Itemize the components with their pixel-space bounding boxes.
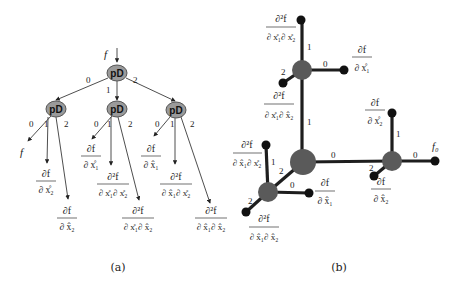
svg-text:∂ x̂₂: ∂ x̂₂ [373, 194, 388, 204]
edge-label-upper-top: 1 [307, 42, 312, 52]
svg-text:∂²f: ∂²f [273, 90, 285, 101]
leaf-dot-lower-top [262, 141, 271, 150]
svg-text:∂ x̂₁∂ x̂₂: ∂ x̂₁∂ x̂₂ [197, 222, 226, 232]
edge-label-c0-1: 1 [44, 119, 49, 129]
leaf-c0-2: ∂f ∂ x̂₂ [57, 205, 77, 232]
formula-right-right: f₀ [432, 141, 439, 152]
formula-lower-right: ∂f ∂ x̂₁ [315, 177, 335, 206]
svg-text:∂f: ∂f [377, 176, 386, 187]
pd-node-child1: pD [107, 101, 127, 117]
edge-label-c2-1: 1 [170, 119, 175, 129]
edge-root-0 [56, 78, 108, 100]
edge-label-c0-0: 0 [29, 119, 34, 129]
svg-text:∂ x̊₁: ∂ x̊₁ [83, 160, 98, 170]
svg-text:∂ x̂₁∂ x̊₂: ∂ x̂₁∂ x̊₂ [233, 158, 262, 168]
edge-label-upper-right: 0 [323, 59, 328, 69]
edge-label-c2-2: 2 [190, 119, 195, 129]
pd-node-child0: pD [46, 101, 66, 117]
leaf-dot-right-right [431, 157, 440, 166]
edge-label-c0-2: 2 [64, 119, 69, 129]
svg-text:∂ x̂₂: ∂ x̂₂ [59, 222, 74, 232]
caption-a: (a) [110, 261, 125, 274]
formula-lower-top: ∂²f ∂ x̂₁∂ x̊₂ [233, 139, 262, 168]
leaf-dot-right-top [388, 109, 397, 118]
svg-text:∂ x̂₁∂ x̂₂: ∂ x̂₁∂ x̂₂ [250, 232, 279, 242]
svg-text:∂²f: ∂²f [132, 205, 144, 216]
node-right [382, 151, 402, 171]
edge-label-root-1: 1 [106, 85, 111, 95]
svg-text:∂f: ∂f [87, 143, 96, 154]
leaf-c2-2: ∂²f ∂ x̂₁∂ x̂₂ [195, 205, 227, 232]
svg-text:∂f: ∂f [42, 168, 51, 179]
svg-text:∂²f: ∂²f [170, 171, 182, 182]
svg-text:∂f: ∂f [371, 97, 380, 108]
diagram-a: f 0 1 2 pD 0 1 2 pD 0 1 2 pD [20, 48, 227, 274]
svg-text:∂f: ∂f [147, 143, 156, 154]
svg-text:∂f: ∂f [321, 177, 330, 188]
svg-text:pD: pD [169, 105, 182, 116]
formula-upper-left: ∂²f ∂ x̊₁∂ x̂₂ [264, 90, 294, 120]
svg-text:∂ x̊₁∂ x̂₂: ∂ x̊₁∂ x̂₂ [124, 222, 153, 232]
edge-label-right-top: 1 [396, 129, 401, 139]
svg-text:∂ x̂₁: ∂ x̂₁ [143, 160, 158, 170]
pd-node-root: pD [107, 65, 127, 81]
leaf-c1-0: ∂f ∂ x̊₁ [81, 143, 101, 170]
leaf-c1-1: ∂²f ∂ x̊₁∂ x̊₂ [97, 171, 129, 198]
formula-lower-left: ∂²f ∂ x̂₁∂ x̂₂ [249, 213, 279, 242]
edge-center-right [303, 161, 392, 162]
svg-text:∂f: ∂f [63, 205, 72, 216]
node-upper [292, 60, 312, 80]
leaf-dot-upper-left [279, 79, 288, 88]
edge-label-root-0: 0 [86, 75, 91, 85]
edge-label-upper-left: 2 [281, 67, 286, 77]
svg-text:∂²f: ∂²f [205, 205, 217, 216]
leaf-dot-upper-right [340, 66, 349, 75]
formula-upper-right: ∂f ∂ x̊₁ [352, 44, 372, 73]
edge-label-root-2: 2 [133, 75, 138, 85]
leaf-c0-0: f [20, 146, 25, 158]
svg-text:∂²f: ∂²f [258, 213, 270, 224]
svg-text:∂ x̊₁∂ x̊₂: ∂ x̊₁∂ x̊₂ [267, 32, 296, 42]
pd-node-child2: pD [166, 102, 186, 118]
edge-label-lower-right: 0 [290, 180, 295, 190]
svg-text:∂²f: ∂²f [107, 171, 119, 182]
leaf-c1-2: ∂²f ∂ x̊₁∂ x̂₂ [122, 205, 154, 232]
edge-label-lower-left: 2 [248, 196, 253, 206]
edge-label-c1-1: 1 [107, 119, 112, 129]
edge-label-c2-0: 0 [155, 119, 160, 129]
svg-text:∂²f: ∂²f [275, 13, 287, 24]
diagram-b: 1 0 2 1 0 2 1 0 2 1 0 2 ∂²f ∂ x̊₁∂ x̊₂ ∂… [233, 13, 440, 274]
leaf-dot-lower-left [242, 208, 251, 217]
leaf-c0-1: ∂f ∂ x̊₂ [36, 168, 56, 195]
edge-label-c1-0: 0 [94, 119, 99, 129]
svg-text:∂ x̊₁∂ x̊₂: ∂ x̊₁∂ x̊₂ [99, 188, 128, 198]
formula-right-top: ∂f ∂ x̊₂ [365, 97, 385, 126]
edge-label-c1-2: 2 [128, 119, 133, 129]
svg-text:∂ x̊₁: ∂ x̊₁ [354, 63, 369, 73]
svg-text:pD: pD [110, 68, 123, 79]
svg-text:∂f: ∂f [358, 44, 367, 55]
formula-upper-top: ∂²f ∂ x̊₁∂ x̊₂ [266, 13, 296, 42]
node-lower [258, 182, 278, 202]
svg-text:pD: pD [110, 104, 123, 115]
edge-label-right-right: 0 [413, 150, 418, 160]
svg-text:∂ x̊₂: ∂ x̊₂ [38, 185, 53, 195]
caption-b: (b) [331, 261, 347, 274]
svg-text:∂ x̂₁∂ x̊₂: ∂ x̂₁∂ x̊₂ [162, 188, 191, 198]
leaf-dot-upper-top [297, 16, 306, 25]
svg-text:pD: pD [49, 104, 62, 115]
edge-c0-2 [56, 117, 68, 199]
svg-text:∂ x̊₂: ∂ x̊₂ [367, 116, 382, 126]
leaf-c2-1: ∂²f ∂ x̂₁∂ x̊₂ [160, 171, 192, 198]
edge-label-right-left: 2 [369, 163, 374, 173]
leaf-c2-0: ∂f ∂ x̂₁ [141, 143, 161, 170]
node-center [290, 149, 316, 175]
svg-text:∂ x̊₁∂ x̂₂: ∂ x̊₁∂ x̂₂ [265, 110, 294, 120]
leaf-dot-lower-right [305, 189, 314, 198]
input-label: f [104, 48, 109, 60]
edge-label-center-left: 2 [279, 166, 284, 176]
svg-text:∂²f: ∂²f [241, 139, 253, 150]
edge-label-lower-top: 1 [271, 157, 276, 167]
svg-text:∂ x̂₁: ∂ x̂₁ [317, 196, 332, 206]
edge-label-center-up: 1 [307, 117, 312, 127]
